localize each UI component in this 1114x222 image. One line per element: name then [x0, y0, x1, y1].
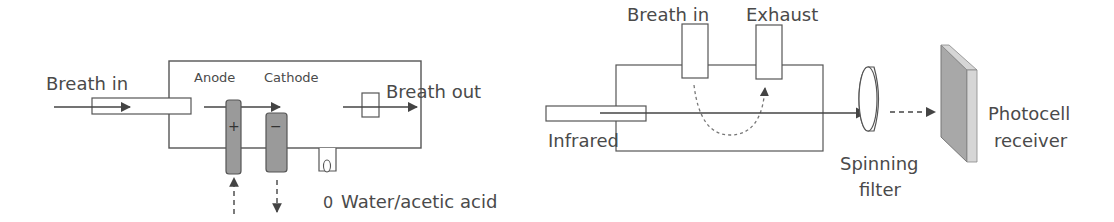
photocell-label-1: Photocell: [988, 103, 1070, 124]
outlet-valve: [362, 93, 379, 117]
breathalyzer-diagrams: Breath in Anode Cathode + − Breath out 0…: [0, 0, 1114, 222]
exhaust-port: [756, 25, 782, 79]
spinning-filter-label-2: filter: [859, 179, 901, 200]
photocell-label-2: receiver: [994, 130, 1068, 151]
breath-in-port: [682, 24, 708, 78]
cathode-label: Cathode: [264, 70, 319, 85]
spinning-filter-label-1: Spinning: [840, 153, 919, 174]
fuel-cell-diagram: Breath in Anode Cathode + − Breath out 0…: [46, 61, 497, 214]
gas-flow-curve: [694, 85, 765, 135]
infrared-diagram: Breath in Exhaust Infrared Spinning filt…: [546, 4, 1070, 200]
ir-chamber: [616, 65, 823, 151]
anode-electrode: [226, 100, 241, 174]
ir-breath-in-label: Breath in: [627, 4, 709, 25]
water-droplet: [324, 160, 331, 172]
anode-sign: +: [228, 118, 240, 134]
water-acetic-acid-label: Water/acetic acid: [341, 191, 497, 212]
cathode-sign: −: [270, 118, 282, 134]
anode-label: Anode: [194, 70, 235, 85]
inlet-tube: [92, 98, 191, 114]
exhaust-label: Exhaust: [746, 4, 818, 25]
breath-in-label: Breath in: [46, 73, 128, 94]
water-symbol: 0: [323, 193, 333, 212]
infrared-label: Infrared: [548, 130, 619, 151]
breath-out-label: Breath out: [386, 81, 481, 102]
spinning-filter: [859, 67, 879, 131]
photocell-receiver: [941, 45, 977, 162]
